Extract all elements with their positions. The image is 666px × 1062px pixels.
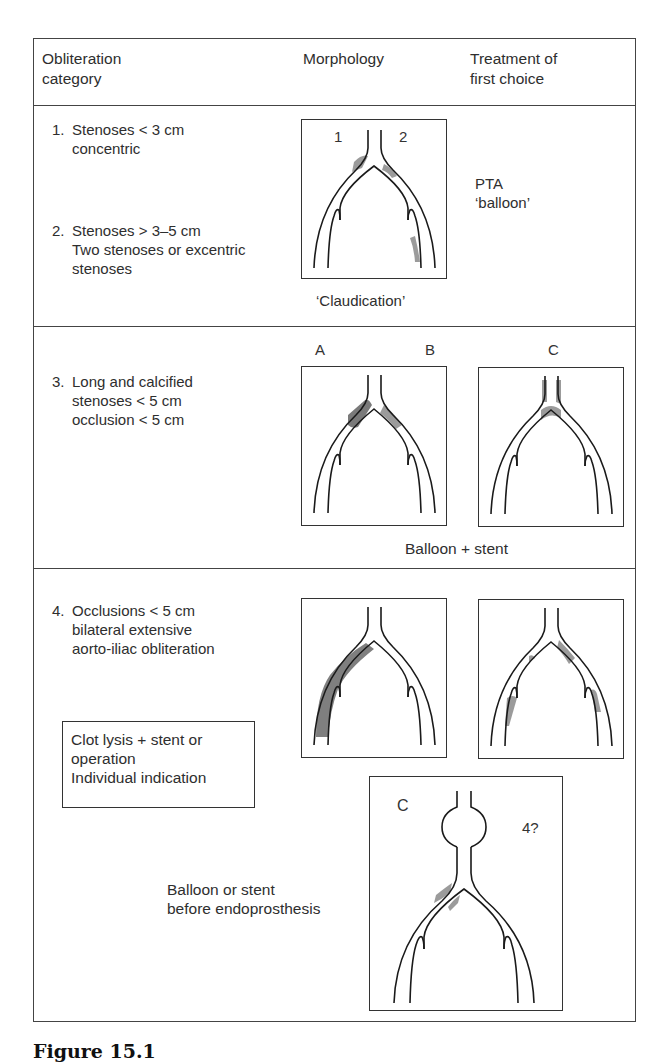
treatment-pta-balloon: PTA ‘balloon’ [475,174,530,212]
treatment-balloon-before-endoprosthesis: Balloon or stent before endoprosthesis [167,880,320,918]
header-morphology: Morphology [303,49,384,69]
claudication-caption: ‘Claudication’ [316,291,405,310]
iliac-bifurcation-diagram [302,120,448,280]
figure-label-1: 1 [334,128,342,145]
aneurysm-label-4: 4? [522,819,539,836]
morphology-figure-c [478,367,624,527]
header-divider [33,105,636,106]
morphology-figure-occlusion-left [301,598,447,758]
category-3-number: 3. [52,372,65,391]
header-obliteration-category: Obliteration category [42,49,121,89]
treatment-box-clot-lysis: Clot lysis + stent or operation Individu… [62,721,255,808]
morphology-figure-a-b [301,366,447,526]
treatment-clot-lysis-text: Clot lysis + stent or operation Individu… [71,730,206,787]
figure-label-b: B [425,341,435,358]
iliac-bifurcation-diagram [302,367,448,527]
iliac-bifurcation-diagram [302,599,448,759]
row-divider-1 [33,326,636,327]
category-1-number: 1. [52,120,65,139]
category-4-number: 4. [52,601,65,620]
morphology-figure-occlusion-right [478,599,624,759]
header-treatment: Treatment of first choice [470,49,557,89]
category-3-text: Long and calcified stenoses < 5 cm occlu… [72,372,193,429]
figure-caption: Figure 15.1 [33,1040,156,1062]
morphology-figure-1-2: 1 2 [301,119,447,279]
category-2-text: Stenoses > 3–5 cm Two stenoses or excent… [72,221,245,278]
row-divider-2 [33,568,636,569]
figure-label-c: C [548,341,559,358]
morphology-figure-aneurysm: C 4? [369,776,563,1011]
figure-label-a: A [315,341,325,358]
treatment-balloon-stent: Balloon + stent [405,539,508,558]
figure-label-2: 2 [399,128,407,145]
iliac-bifurcation-diagram [479,368,625,528]
aneurysm-label-c: C [397,797,409,815]
category-2-number: 2. [52,221,65,240]
category-4-text: Occlusions < 5 cm bilateral extensive ao… [72,601,215,658]
iliac-bifurcation-diagram [479,600,625,760]
category-1-text: Stenoses < 3 cm concentric [72,120,184,158]
